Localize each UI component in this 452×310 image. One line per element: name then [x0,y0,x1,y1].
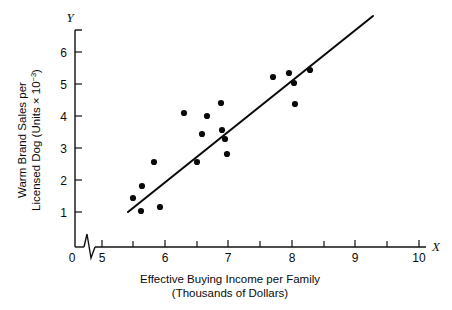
y-axis-title-line1: Warm Brand Sales per [16,82,28,198]
data-point [292,101,298,107]
x-tick-label-10: 10 [412,251,426,265]
x-tick-label-5: 5 [99,251,106,265]
y-axis-title: Warm Brand Sales per Licensed Dog (Units… [16,69,42,211]
x-axis-title-line1: Effective Buying Income per Family [140,273,320,285]
x-tick-label-8: 8 [289,251,296,265]
regression-line [128,16,373,212]
y-axis-title-line2-suffix: ) [30,69,42,73]
plot-canvas: 6 5 4 3 2 1 Y 0 5 6 7 8 9 [0,0,452,310]
y-tick-label-1: 1 [60,206,67,220]
data-point [204,113,210,119]
y-axis-title-line2-prefix: Licensed Dog (Units × 10 [30,81,42,210]
y-tick-label-6: 6 [60,46,67,60]
axis-break-icon [84,234,95,258]
y-tick-label-3: 3 [60,142,67,156]
data-point [139,183,145,189]
data-point [270,74,276,80]
x-axis-title-line2: (Thousands of Dollars) [172,287,288,299]
data-point [151,159,157,165]
x-tick-label-6: 6 [162,251,169,265]
data-point [219,127,225,133]
data-point [286,70,292,76]
y-axis-title-exponent: −3 [29,73,38,82]
y-axis-letter: Y [66,10,75,25]
data-point [291,80,297,86]
data-point [199,131,205,137]
y-tick-label-4: 4 [60,110,67,124]
data-point [138,208,144,214]
data-point [181,110,187,116]
origin-label: 0 [69,251,76,265]
y-tick-label-5: 5 [60,78,67,92]
x-tick-label-9: 9 [352,251,359,265]
y-tick-label-2: 2 [60,174,67,188]
y-tick-marks [75,52,82,212]
data-point [218,100,224,106]
scatter-plot-figure: 6 5 4 3 2 1 Y 0 5 6 7 8 9 [0,0,452,310]
x-minor-tick-marks [133,241,387,247]
data-point [224,151,230,157]
data-point [157,204,163,210]
x-tick-label-7: 7 [225,251,232,265]
data-point [222,136,228,142]
x-axis-letter: X [431,239,441,254]
data-point [194,159,200,165]
data-point [307,67,313,73]
data-point [130,195,136,201]
y-axis-title-line2: Licensed Dog (Units × 10−3) [29,69,42,211]
data-points-group [130,67,313,214]
